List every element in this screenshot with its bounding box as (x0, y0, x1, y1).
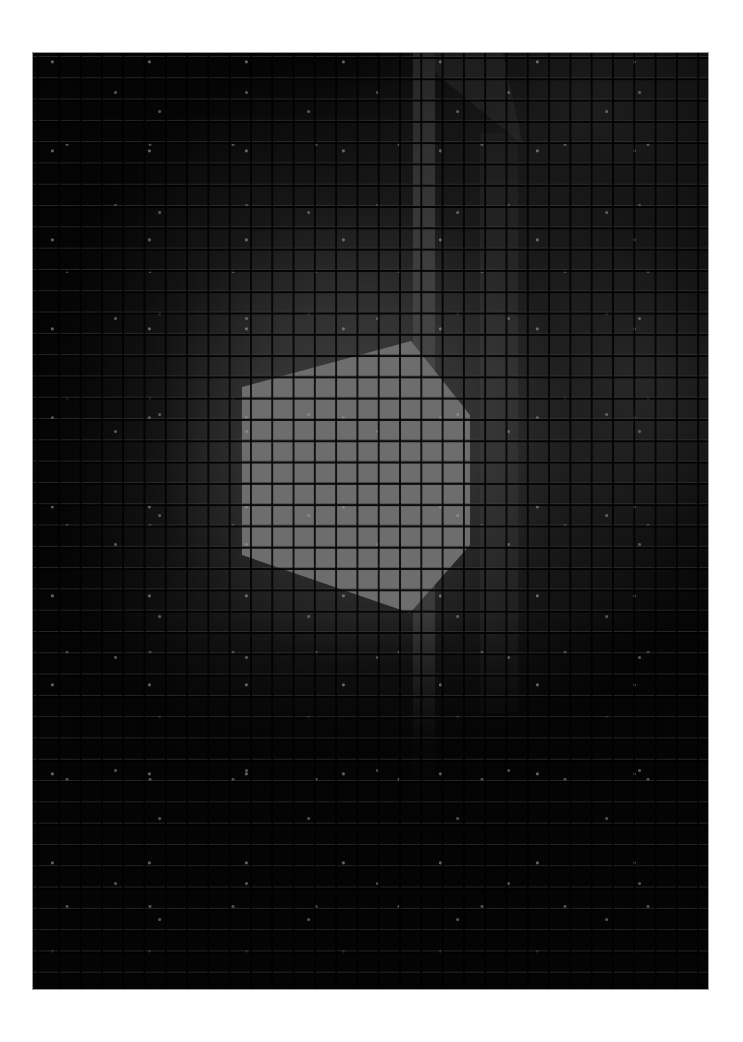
page (0, 0, 743, 1042)
tiled-image (33, 53, 708, 989)
tile-grid (33, 53, 708, 989)
